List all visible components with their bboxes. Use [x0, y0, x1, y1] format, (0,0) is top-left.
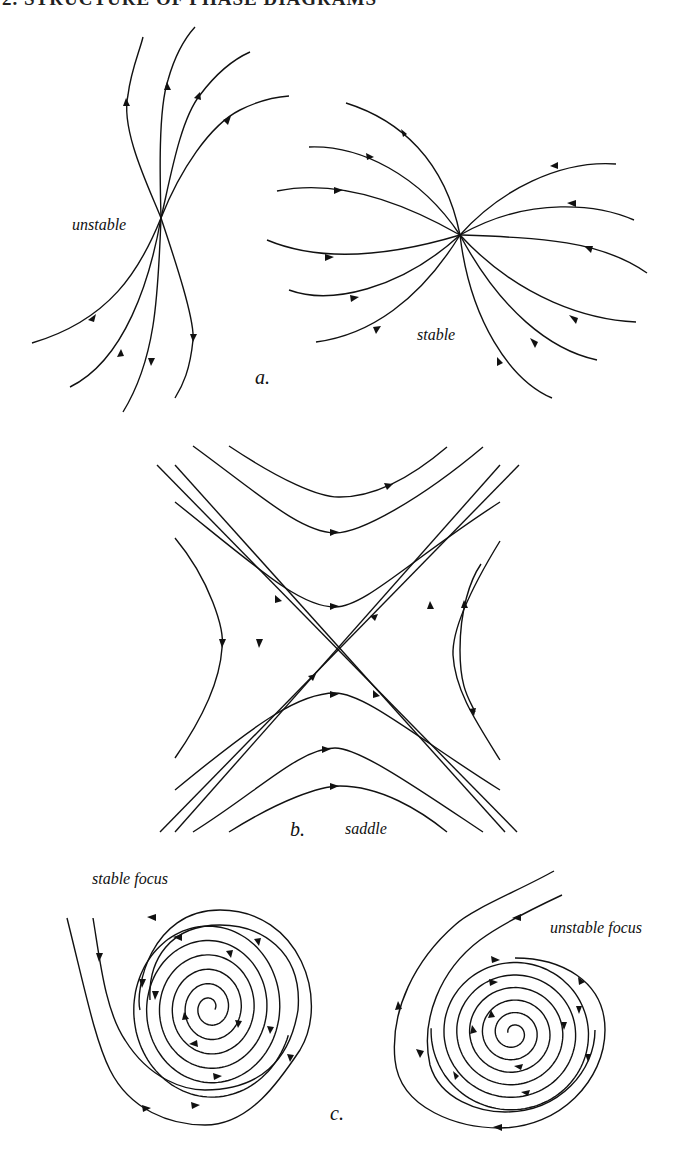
- panel-b-caption: b.: [290, 818, 305, 840]
- spiral-trajectory: [431, 963, 588, 1110]
- stable-label: stable: [417, 326, 455, 343]
- saddle-diagram: b. saddle: [157, 446, 519, 840]
- trajectory: [346, 103, 460, 235]
- panel-a-caption: a.: [255, 366, 270, 388]
- spiral-path: [431, 963, 588, 1110]
- outgoing-trajectory: [394, 871, 605, 1128]
- unstable-focus-diagram: unstable focus: [394, 871, 642, 1131]
- unstable-node-diagram: unstable: [32, 27, 289, 412]
- trajectory: [460, 207, 634, 235]
- unstable-focus-label: unstable focus: [550, 919, 642, 937]
- trajectory: [277, 188, 460, 235]
- stable-node-diagram: stable: [267, 103, 647, 398]
- saddle-label: saddle: [345, 820, 387, 837]
- trajectory: [229, 786, 447, 832]
- trajectory: [309, 147, 460, 235]
- trajectory: [193, 748, 483, 832]
- trajectory: [460, 164, 616, 235]
- trajectory: [193, 446, 483, 533]
- trajectory: [160, 27, 195, 218]
- trajectory: [289, 235, 460, 295]
- trajectory: [460, 235, 597, 360]
- trajectory: [175, 693, 500, 790]
- trajectory: [175, 538, 222, 758]
- trajectory: [460, 235, 647, 273]
- trajectory: [161, 52, 250, 218]
- trajectory: [127, 37, 161, 218]
- unstable-label: unstable: [72, 216, 126, 233]
- phase-diagram-figure: unstable stable a.: [0, 0, 699, 1160]
- trajectory: [161, 96, 289, 218]
- stable-focus-label: stable focus: [92, 870, 168, 888]
- panel-c-caption: c.: [330, 1102, 344, 1124]
- trajectory: [32, 218, 161, 343]
- trajectory: [161, 218, 193, 398]
- trajectory: [175, 502, 500, 607]
- trajectory: [460, 564, 481, 712]
- arrowheads: [395, 914, 591, 1131]
- trajectory: [229, 446, 447, 497]
- stable-focus-diagram: stable focus c.: [67, 870, 344, 1125]
- trajectory: [70, 218, 161, 387]
- arrowheads: [96, 914, 294, 1112]
- trajectory: [267, 235, 460, 254]
- arrowheads: [325, 129, 593, 366]
